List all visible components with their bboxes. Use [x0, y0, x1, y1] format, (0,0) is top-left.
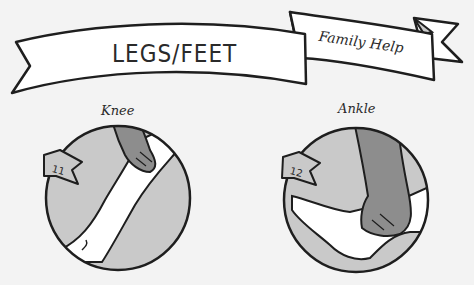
ankle-card: Ankle 12	[282, 101, 440, 272]
ankle-label: Ankle	[337, 101, 376, 116]
title-text: LEGS/FEET	[112, 40, 237, 68]
knee-card: Knee 11	[44, 103, 190, 270]
title-ribbon: LEGS/FEET	[12, 24, 306, 93]
knee-label: Knee	[100, 103, 135, 118]
subtitle-ribbon: Family Help	[290, 12, 462, 80]
illustration: Family Help LEGS/FEET Knee 11 Ankle	[0, 0, 474, 285]
